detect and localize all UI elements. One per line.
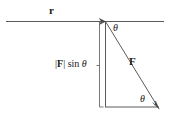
theta-bottom-label: θ (140, 94, 145, 104)
force-vector-label: F (129, 56, 136, 67)
f-sin-theta-symbol: θ (82, 58, 87, 69)
torque-vector-diagram: r F θ θ |F| sin θ (0, 0, 169, 117)
theta-top-label: θ (113, 23, 118, 33)
f-sin-theta-label: |F| sin θ (55, 59, 87, 69)
force-arrowhead-icon (153, 101, 159, 109)
f-sin-function-name: sin (65, 58, 82, 69)
r-vector-label: r (49, 5, 54, 16)
